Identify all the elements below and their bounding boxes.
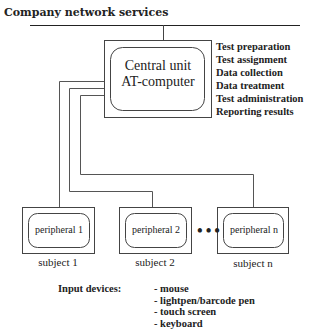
cable-peripheral-1: [60, 82, 105, 208]
ellipsis-icon: •••: [196, 224, 222, 238]
peripheral-1-label: peripheral 1: [29, 224, 89, 235]
central-unit-line-2: AT-computer: [112, 74, 204, 90]
task-item: Reporting results: [216, 105, 303, 118]
cable-peripheral-2: [70, 89, 153, 208]
subject-n-label: subject n: [217, 257, 289, 269]
input-device-item: - mouse: [154, 283, 255, 295]
central-unit-line-1: Central unit: [112, 58, 204, 74]
input-devices-label: Input devices:: [58, 283, 121, 294]
task-item: Test preparation: [216, 40, 303, 53]
task-item: Data treatment: [216, 79, 303, 92]
peripheral-n-label: peripheral n: [224, 224, 284, 235]
task-list: Test preparation Test assignment Data co…: [216, 40, 303, 118]
input-devices-list: - mouse - lightpen/barcode pen - touch s…: [154, 283, 255, 329]
task-item: Data collection: [216, 66, 303, 79]
network-title: Company network services: [4, 6, 168, 19]
task-item: Test administration: [216, 92, 303, 105]
input-device-item: - keyboard: [154, 318, 255, 330]
central-unit-label: Central unit AT-computer: [112, 58, 204, 90]
task-item: Test assignment: [216, 53, 303, 66]
subject-2-label: subject 2: [119, 256, 191, 268]
subject-1-label: subject 1: [22, 256, 94, 268]
input-device-item: - lightpen/barcode pen: [154, 295, 255, 307]
peripheral-2-label: peripheral 2: [126, 224, 186, 235]
input-device-item: - touch screen: [154, 306, 255, 318]
